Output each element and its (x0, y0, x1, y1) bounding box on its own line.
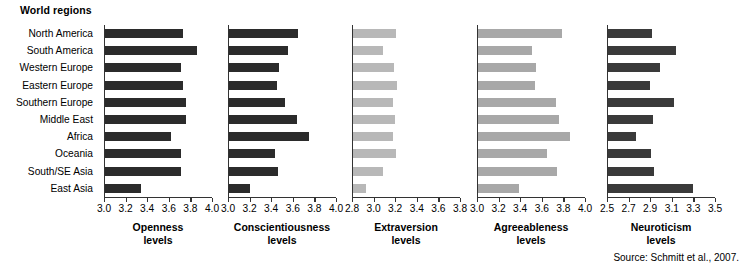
bar (478, 98, 556, 107)
bar (105, 63, 181, 72)
bar (105, 46, 197, 55)
panel-title-line1: Extraversion (352, 221, 460, 234)
x-axis-tick (336, 198, 337, 202)
bar (353, 149, 396, 158)
panel-conscientiousness: 3.03.23.43.63.84.0Conscientiousnesslevel… (228, 25, 336, 268)
bar (608, 184, 693, 193)
x-axis-tick (585, 198, 586, 202)
bar (353, 132, 393, 141)
panel-title-openness: Opennesslevels (104, 221, 212, 246)
bar (478, 115, 559, 124)
x-axis-line (228, 197, 336, 198)
x-axis-tick-label: 3.8 (556, 203, 570, 214)
x-axis-tick (542, 198, 543, 202)
x-axis-tick-label: 3.4 (140, 203, 154, 214)
bar (478, 167, 557, 176)
panel-agreeableness: 3.03.23.43.63.84.0Agreeablenesslevels (477, 25, 585, 268)
x-axis-tick-label: 3.2 (119, 203, 133, 214)
x-axis-tick-label: 3.6 (162, 203, 176, 214)
plot-area-extraversion: 2.83.03.23.43.63.8 (352, 25, 460, 197)
x-axis-tick (314, 198, 315, 202)
plot-area-openness: 3.03.23.43.63.84.0 (104, 25, 212, 197)
x-axis-tick-label: 3.3 (686, 203, 700, 214)
panel-title-line2: levels (477, 234, 585, 247)
x-axis-tick (438, 198, 439, 202)
x-axis-tick (417, 198, 418, 202)
x-axis-tick-label: 3.4 (513, 203, 527, 214)
bar (353, 29, 396, 38)
x-axis-tick-label: 3.6 (431, 203, 445, 214)
x-axis-tick (374, 198, 375, 202)
x-axis-tick (190, 198, 191, 202)
x-axis-tick (293, 198, 294, 202)
bar (229, 184, 250, 193)
region-label: South/SE Asia (28, 163, 93, 180)
panel-title-line2: levels (607, 234, 715, 247)
bar (229, 98, 285, 107)
chart-root: World regions North AmericaSouth America… (0, 0, 747, 268)
bar (105, 98, 186, 107)
x-axis-tick (650, 198, 651, 202)
bar (105, 132, 171, 141)
x-axis-tick-label: 3.2 (388, 203, 402, 214)
bar (229, 46, 288, 55)
bar (608, 115, 653, 124)
panel-extraversion: 2.83.03.23.43.63.8Extraversionlevels (352, 25, 460, 268)
plot-area-neuroticism: 2.52.72.93.13.33.5 (607, 25, 715, 197)
bar (478, 132, 570, 141)
x-axis-tick (169, 198, 170, 202)
x-axis-tick-label: 3.0 (97, 203, 111, 214)
region-label: North America (28, 25, 93, 42)
x-axis-tick (228, 198, 229, 202)
x-axis-tick (715, 198, 716, 202)
x-axis-line (607, 197, 715, 198)
region-label: Oceania (55, 145, 93, 162)
x-axis-tick (460, 198, 461, 202)
bar (105, 81, 183, 90)
x-axis-tick-label: 3.0 (367, 203, 381, 214)
panel-title-extraversion: Extraversionlevels (352, 221, 460, 246)
x-axis-tick-label: 2.8 (345, 203, 359, 214)
region-label: Eastern Europe (22, 77, 93, 94)
bar (478, 46, 532, 55)
x-axis-tick-label: 3.5 (708, 203, 722, 214)
panel-title-line1: Neuroticism (607, 221, 715, 234)
x-axis-tick-label: 3.8 (183, 203, 197, 214)
bar (229, 81, 277, 90)
x-axis-line (104, 197, 212, 198)
panel-title-line1: Openness (104, 221, 212, 234)
region-label: Western Europe (20, 59, 93, 76)
x-axis-tick-label: 3.2 (492, 203, 506, 214)
region-label: Southern Europe (16, 94, 93, 111)
panel-title-agreeableness: Agreeablenesslevels (477, 221, 585, 246)
bar (478, 184, 519, 193)
page-title: World regions (20, 4, 92, 16)
region-label: East Asia (51, 180, 93, 197)
x-axis-tick (212, 198, 213, 202)
panel-title-line1: Conscientiousness (228, 221, 336, 234)
x-axis-tick-label: 3.4 (410, 203, 424, 214)
bar (478, 149, 547, 158)
x-axis-tick (499, 198, 500, 202)
x-axis-tick (104, 198, 105, 202)
plot-area-conscientiousness: 3.03.23.43.63.84.0 (228, 25, 336, 197)
bar (229, 167, 278, 176)
panel-title-line2: levels (228, 234, 336, 247)
x-axis-tick (147, 198, 148, 202)
x-axis-tick-label: 3.4 (264, 203, 278, 214)
x-axis-tick (126, 198, 127, 202)
plot-area-agreeableness: 3.03.23.43.63.84.0 (477, 25, 585, 197)
bar (608, 29, 652, 38)
x-axis-tick-label: 2.9 (643, 203, 657, 214)
x-axis-tick (693, 198, 694, 202)
bar (353, 81, 397, 90)
x-axis-tick-label: 3.0 (221, 203, 235, 214)
bar (608, 81, 650, 90)
x-axis-tick (352, 198, 353, 202)
region-label: Middle East (40, 111, 93, 128)
x-axis-line (352, 197, 460, 198)
panel-title-line1: Agreeableness (477, 221, 585, 234)
x-axis-tick-label: 3.0 (470, 203, 484, 214)
x-axis-tick-label: 3.6 (286, 203, 300, 214)
x-axis-tick (520, 198, 521, 202)
